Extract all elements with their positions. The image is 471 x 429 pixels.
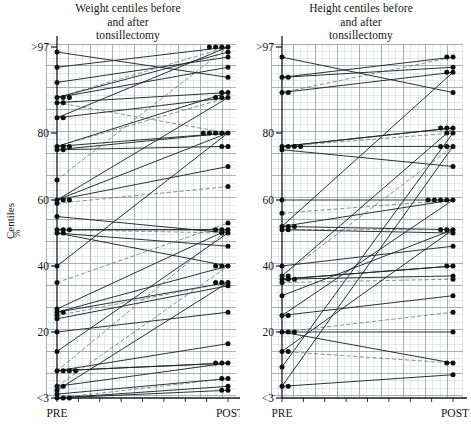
height-pre-point: [292, 224, 297, 229]
weight-pre-point: [55, 100, 60, 105]
height-post-point: [451, 361, 456, 366]
weight-post-point: [219, 45, 224, 50]
weight-post-point: [226, 95, 231, 100]
height-post-point: [451, 231, 456, 236]
weight-pre-point: [61, 198, 66, 203]
weight-post-point: [226, 75, 231, 80]
weight-post-point: [226, 55, 231, 60]
height-pre-point: [280, 280, 285, 285]
weight-pre-point: [67, 144, 72, 149]
weight-pre-point: [55, 231, 60, 236]
height-post-point: [432, 198, 437, 203]
height-post-point: [451, 372, 456, 377]
height-pre-point: [286, 227, 291, 232]
height-pre-point: [286, 349, 291, 354]
weight-pre-point: [61, 95, 66, 100]
weight-post-point: [207, 45, 212, 50]
height-post-point: [444, 227, 449, 232]
weight-post-point: [213, 227, 218, 232]
height-pre-point: [280, 313, 285, 318]
weight-post-point: [219, 144, 224, 149]
height-post-point: [451, 293, 456, 298]
weight-pre-point: [67, 198, 72, 203]
height-pre-point: [298, 144, 303, 149]
height-post-point: [451, 264, 456, 269]
weight-post-point: [219, 264, 224, 269]
weight-post-point: [226, 131, 231, 136]
weight-ytick-2: 60: [38, 194, 50, 206]
weight-pre-point: [55, 80, 60, 85]
weight-post-point: [219, 95, 224, 100]
height-pre-point: [286, 144, 291, 149]
height-post-point: [451, 310, 456, 315]
height-pre-point: [280, 147, 285, 152]
height-pre-point: [280, 227, 285, 232]
height-post-point: [444, 144, 449, 149]
weight-post-point: [226, 388, 231, 393]
height-post-point: [451, 65, 456, 70]
weight-pre-point: [61, 231, 66, 236]
weight-post-point: [219, 231, 224, 236]
weight-post-point: [219, 90, 224, 95]
height-post-point: [451, 131, 456, 136]
height-post-point: [444, 198, 449, 203]
weight-pre-point: [55, 147, 60, 152]
height-pre-point: [286, 90, 291, 95]
height-post-point: [426, 198, 431, 203]
weight-pre-point: [55, 177, 60, 182]
weight-post-point: [213, 280, 218, 285]
weight-pre-point: [67, 227, 72, 232]
height-pre-point: [280, 330, 285, 335]
height-pre-point: [280, 293, 285, 298]
weight-pre-point: [55, 214, 60, 219]
weight-pre-point: [55, 264, 60, 269]
height-slopegraph-plot: >9780604020<3PREPOST: [235, 0, 471, 429]
weight-pre-point: [61, 396, 66, 401]
weight-ytick-5: <3: [37, 392, 49, 404]
height-pre-point: [280, 349, 285, 354]
height-pre-point: [286, 313, 291, 318]
panel-weight: Weight centiles before and after tonsill…: [0, 0, 240, 429]
height-post-point: [451, 144, 456, 149]
weight-pre-point: [55, 330, 60, 335]
height-pre-point: [292, 330, 297, 335]
height-post-point: [451, 70, 456, 75]
weight-pre-point: [55, 396, 60, 401]
height-post-point: [444, 70, 449, 75]
weight-post-point: [226, 65, 231, 70]
weight-post-point: [226, 264, 231, 269]
weight-pre-point: [55, 95, 60, 100]
height-pre-point: [280, 264, 285, 269]
height-pre-point: [280, 90, 285, 95]
height-pre-point: [292, 144, 297, 149]
height-ytick-4: 20: [263, 326, 275, 338]
height-ytick-1: 80: [263, 127, 275, 139]
weight-post-point: [226, 283, 231, 288]
weight-pre-point: [61, 115, 66, 120]
weight-pre-point: [61, 147, 66, 152]
height-pre-point: [280, 384, 285, 389]
height-post-point: [444, 125, 449, 130]
weight-pre-point: [55, 316, 60, 321]
height-pre-point: [286, 277, 291, 282]
height-post-point: [451, 90, 456, 95]
weight-xtick-pre: PRE: [46, 407, 67, 419]
height-post-point: [444, 55, 449, 60]
weight-post-point: [226, 45, 231, 50]
y-axis-caption-unit: %: [11, 224, 22, 244]
weight-post-point: [226, 244, 231, 249]
height-pre-point: [280, 55, 285, 60]
height-ytick-2: 60: [263, 194, 275, 206]
weight-post-point: [219, 131, 224, 136]
weight-post-point: [219, 376, 224, 381]
weight-post-point: [226, 310, 231, 315]
weight-post-point: [213, 131, 218, 136]
weight-post-point: [226, 90, 231, 95]
weight-post-point: [226, 164, 231, 169]
height-post-point: [444, 264, 449, 269]
height-post-point: [438, 144, 443, 149]
weight-pre-point: [61, 310, 66, 315]
weight-ytick-1: 80: [38, 127, 50, 139]
weight-pre-point: [61, 100, 66, 105]
weight-pre-point: [55, 50, 60, 55]
